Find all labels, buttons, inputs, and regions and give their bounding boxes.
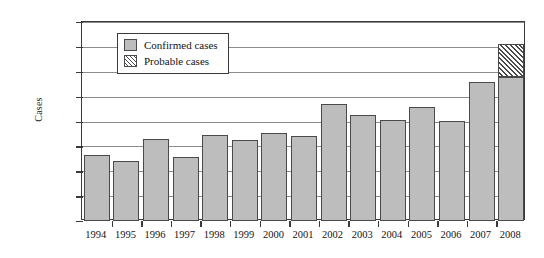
bar-confirmed	[439, 121, 465, 221]
x-axis-tick	[171, 221, 172, 227]
bar-confirmed	[380, 120, 406, 221]
x-axis-tick	[408, 221, 409, 227]
y-axis-tick	[76, 22, 83, 23]
x-axis-label: 2005	[411, 229, 432, 240]
bar-confirmed	[84, 155, 110, 221]
x-axis-tick	[467, 221, 468, 227]
legend-label-confirmed: Confirmed cases	[144, 39, 218, 51]
x-axis-label: 2001	[293, 229, 314, 240]
x-axis-label: 2002	[322, 229, 343, 240]
x-axis-label: 1998	[204, 229, 225, 240]
x-axis-label: 1994	[85, 229, 106, 240]
y-axis-tick	[76, 221, 83, 222]
y-axis-tick	[76, 72, 83, 73]
legend-item-confirmed: Confirmed cases	[124, 37, 218, 53]
gridline	[82, 97, 524, 98]
bar-confirmed	[498, 77, 524, 221]
hatched-swatch-icon	[124, 55, 137, 67]
bar-probable	[498, 44, 524, 77]
bar-confirmed	[202, 135, 228, 221]
y-axis-title: Cases	[33, 80, 44, 140]
gridline	[82, 22, 524, 23]
x-axis-label: 1997	[174, 229, 195, 240]
y-axis-tick	[76, 146, 83, 147]
x-axis-label: 1995	[115, 229, 136, 240]
x-axis-tick	[260, 221, 261, 227]
x-axis-label: 2004	[381, 229, 402, 240]
bar-confirmed	[261, 133, 287, 221]
y-axis-tick	[76, 122, 83, 123]
bar-chart: Cases 05,00010,00015,00020,00025,00030,0…	[0, 0, 544, 258]
legend-label-probable: Probable cases	[144, 55, 209, 67]
bar-confirmed	[232, 140, 258, 221]
bar-confirmed	[469, 82, 495, 221]
x-axis-tick	[437, 221, 438, 227]
y-axis-tick	[76, 47, 83, 48]
x-axis-label: 1996	[145, 229, 166, 240]
bar-confirmed	[143, 139, 169, 221]
x-axis-label: 2007	[470, 229, 491, 240]
x-axis-label: 1999	[233, 229, 254, 240]
legend-item-probable: Probable cases	[124, 53, 218, 69]
x-axis-tick	[348, 221, 349, 227]
x-axis-tick	[230, 221, 231, 227]
x-axis-tick	[319, 221, 320, 227]
bar-confirmed	[321, 104, 347, 221]
y-axis-tick	[76, 196, 83, 197]
solid-grey-swatch-icon	[124, 39, 137, 51]
x-axis-label: 2006	[441, 229, 462, 240]
bar-confirmed	[291, 136, 317, 221]
x-axis-label: 2008	[500, 229, 521, 240]
bar-confirmed	[173, 157, 199, 221]
bar-confirmed	[113, 161, 139, 221]
bar-confirmed	[409, 107, 435, 221]
x-axis-tick	[112, 221, 113, 227]
x-axis-tick	[200, 221, 201, 227]
y-axis-tick	[76, 97, 83, 98]
bar-confirmed	[350, 115, 376, 221]
x-axis-tick	[141, 221, 142, 227]
x-axis-label: 2003	[352, 229, 373, 240]
y-axis-tick	[76, 171, 83, 172]
x-axis-label: 2000	[263, 229, 284, 240]
chart-legend: Confirmed cases Probable cases	[117, 33, 229, 74]
x-axis-tick	[289, 221, 290, 227]
x-axis-tick	[496, 221, 497, 227]
x-axis-tick	[378, 221, 379, 227]
